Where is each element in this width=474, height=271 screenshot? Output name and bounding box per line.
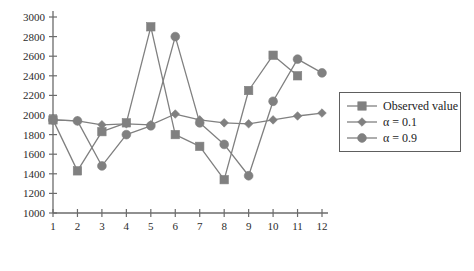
legend-label: α = 0.9 [383, 131, 417, 145]
data-point-circle [98, 162, 107, 171]
data-point-circle [171, 32, 180, 41]
chart-container: 1000120014001600180020002200240026002800… [0, 0, 474, 271]
legend-label: α = 0.1 [383, 115, 417, 129]
y-axis-ticks: 1000120014001600180020002200240026002800… [23, 11, 57, 219]
legend-square-icon [358, 102, 366, 110]
series-layer [49, 23, 327, 184]
data-point-square [196, 142, 204, 150]
y-tick-label: 2400 [23, 70, 46, 82]
x-tick-label: 8 [221, 220, 227, 232]
data-point-square [269, 51, 277, 59]
legend-marker-square [346, 99, 378, 113]
data-point-diamond [318, 109, 327, 118]
series-line-3 [53, 37, 322, 176]
data-point-square [73, 167, 81, 175]
x-tick-label: 4 [124, 220, 130, 232]
x-axis: 123456789101112 [50, 209, 328, 232]
data-point-circle [73, 116, 82, 125]
y-tick-label: 1200 [23, 187, 46, 199]
data-point-square [244, 86, 252, 94]
y-tick-label: 1800 [23, 129, 46, 141]
data-point-circle [122, 130, 131, 139]
y-tick-label: 1000 [23, 207, 46, 219]
y-tick-label: 2600 [23, 50, 46, 62]
data-point-circle [195, 118, 204, 127]
y-tick-label: 2200 [23, 89, 46, 101]
legend-diamond-icon [358, 118, 367, 127]
y-axis: 1000120014001600180020002200240026002800… [23, 11, 57, 219]
x-tick-label: 7 [197, 220, 203, 232]
data-point-square [220, 175, 228, 183]
series-2 [49, 109, 327, 129]
legend-marker-diamond [346, 115, 378, 129]
data-point-square [293, 72, 301, 80]
data-point-diamond [244, 120, 253, 129]
y-tick-label: 1600 [23, 148, 46, 160]
legend-item-2[interactable]: α = 0.1 [346, 114, 452, 130]
x-tick-label: 11 [292, 220, 303, 232]
x-tick-label: 9 [246, 220, 252, 232]
series-1 [49, 23, 302, 184]
data-point-square [147, 23, 155, 31]
data-point-diamond [220, 119, 229, 128]
data-point-circle [146, 121, 155, 130]
data-point-circle [244, 171, 253, 180]
legend-marker-circle [346, 131, 378, 145]
data-point-square [171, 130, 179, 138]
y-tick-label: 1400 [23, 168, 46, 180]
data-point-diamond [269, 116, 278, 125]
data-point-diamond [171, 110, 180, 119]
legend-item-1[interactable]: Observed value [346, 98, 452, 114]
data-point-diamond [293, 112, 302, 121]
x-tick-label: 1 [50, 220, 56, 232]
x-tick-label: 12 [317, 220, 328, 232]
data-point-circle [49, 116, 58, 125]
legend-circle-icon [358, 134, 367, 143]
data-point-circle [269, 97, 278, 106]
legend-label: Observed value [383, 99, 458, 113]
series-3 [49, 32, 327, 180]
x-tick-label: 2 [75, 220, 81, 232]
series-line-1 [53, 27, 298, 180]
data-point-circle [318, 68, 327, 77]
y-tick-label: 3000 [23, 11, 46, 23]
series-line-2 [53, 113, 322, 125]
data-point-circle [293, 55, 302, 64]
x-tick-label: 3 [99, 220, 105, 232]
x-tick-label: 10 [268, 220, 280, 232]
legend-item-3[interactable]: α = 0.9 [346, 130, 452, 146]
y-tick-label: 2800 [23, 31, 46, 43]
data-point-circle [220, 140, 229, 149]
y-tick-label: 2000 [23, 109, 46, 121]
chart-legend: Observed valueα = 0.1α = 0.9 [339, 92, 461, 152]
x-tick-label: 5 [148, 220, 154, 232]
x-tick-label: 6 [173, 220, 179, 232]
